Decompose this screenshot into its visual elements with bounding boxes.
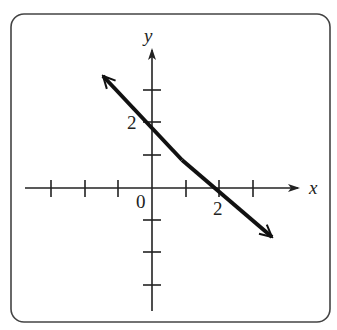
origin-label: 0	[136, 191, 146, 212]
graph-figure: y x 0 2 2	[0, 0, 337, 330]
y-axis-label: y	[142, 25, 153, 46]
plotted-line-lower	[182, 160, 272, 237]
y-tick-label-2: 2	[127, 112, 137, 133]
plotted-line	[103, 76, 182, 160]
x-tick-label-2: 2	[213, 198, 223, 219]
x-axis-label: x	[308, 177, 318, 198]
frame-border	[11, 14, 330, 322]
